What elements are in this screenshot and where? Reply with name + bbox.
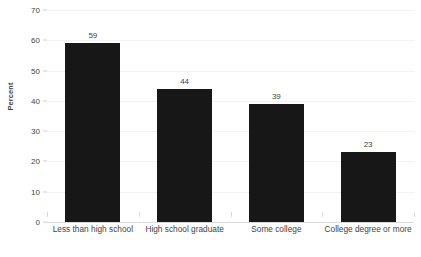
x-tick-separator bbox=[231, 212, 232, 217]
bar-value-label: 39 bbox=[231, 92, 323, 104]
x-tick-label: Less than high school bbox=[47, 224, 139, 234]
y-tick-label: 60 bbox=[31, 36, 40, 45]
x-tick-label: College degree or more bbox=[322, 224, 414, 234]
y-tick-mark bbox=[43, 191, 47, 192]
bar bbox=[157, 89, 212, 222]
y-tick-label: 50 bbox=[31, 66, 40, 75]
x-tick-separator bbox=[139, 212, 140, 217]
y-tick-mark bbox=[43, 161, 47, 162]
y-tick-label: 20 bbox=[31, 157, 40, 166]
bar bbox=[341, 152, 396, 222]
y-tick-label: 30 bbox=[31, 127, 40, 136]
y-tick-mark bbox=[43, 131, 47, 132]
gridline bbox=[47, 10, 414, 11]
bar bbox=[249, 104, 304, 222]
y-tick-mark bbox=[43, 70, 47, 71]
x-tick-label: Some college bbox=[231, 224, 323, 234]
y-tick-label: 10 bbox=[31, 187, 40, 196]
y-tick-label: 70 bbox=[31, 6, 40, 15]
y-tick-mark bbox=[43, 222, 47, 223]
bar-value-label: 59 bbox=[47, 31, 139, 43]
x-tick-separator bbox=[47, 212, 48, 217]
x-tick-separator bbox=[414, 212, 415, 217]
x-tick-separator bbox=[322, 212, 323, 217]
y-axis-title: Percent bbox=[6, 65, 15, 129]
y-tick-mark bbox=[43, 100, 47, 101]
bar bbox=[65, 43, 120, 222]
bar-chart: Percent 010203040506070 59443923 Less th… bbox=[0, 0, 421, 257]
bar-value-label: 23 bbox=[322, 140, 414, 152]
axis-baseline bbox=[47, 222, 414, 223]
y-tick-label: 40 bbox=[31, 96, 40, 105]
plot-area: 010203040506070 59443923 bbox=[47, 10, 414, 222]
x-tick-label: High school graduate bbox=[139, 224, 231, 234]
y-tick-label: 0 bbox=[36, 218, 40, 227]
y-tick-mark bbox=[43, 10, 47, 11]
bar-value-label: 44 bbox=[139, 77, 231, 89]
